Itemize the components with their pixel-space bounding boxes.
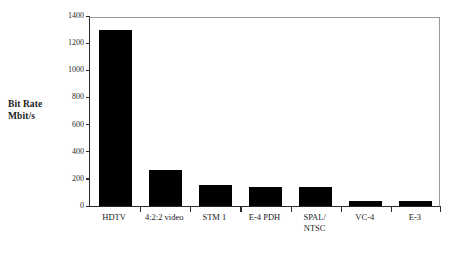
y-axis-tick-mark	[86, 124, 90, 125]
y-axis-tick-mark	[86, 43, 90, 44]
bar	[149, 170, 182, 206]
x-axis-category-label: HDTV	[89, 212, 139, 223]
y-axis-tick-label: 1200	[54, 37, 84, 48]
bar	[99, 30, 132, 206]
y-axis-tick-mark	[86, 97, 90, 98]
plot-area: 0200400600800100012001400	[89, 17, 440, 207]
x-axis-category-label: SPAL/ NTSC	[290, 212, 340, 233]
bar	[399, 201, 432, 206]
y-axis-tick-mark	[86, 151, 90, 152]
x-axis-category-label: 4:2:2 video	[139, 212, 189, 223]
y-axis-tick-label: 200	[54, 173, 84, 184]
x-axis-category-label: E-4 PDH	[239, 212, 289, 223]
y-axis-tick-mark	[86, 206, 90, 207]
bar	[299, 187, 332, 206]
y-axis-tick-label: 800	[54, 91, 84, 102]
bar-chart: Bit Rate Mbit/s 020040060080010001200140…	[0, 0, 456, 253]
y-axis-tick-mark	[86, 70, 90, 71]
bar	[199, 185, 232, 206]
y-axis-tick-label: 600	[54, 119, 84, 130]
x-axis-category-label: VC-4	[340, 212, 390, 223]
y-axis-tick-mark	[86, 16, 90, 17]
x-axis-category-label: STM 1	[189, 212, 239, 223]
bar	[249, 187, 282, 206]
y-axis-tick-label: 0	[54, 200, 84, 211]
x-axis-tick-mark	[440, 206, 441, 212]
y-axis-tick-label: 1000	[54, 64, 84, 75]
y-axis-tick-mark	[86, 178, 90, 179]
y-axis-tick-label: 400	[54, 146, 84, 157]
x-axis-category-label: E-3	[390, 212, 440, 223]
y-axis-tick-label: 1400	[54, 10, 84, 21]
bar	[349, 201, 382, 206]
